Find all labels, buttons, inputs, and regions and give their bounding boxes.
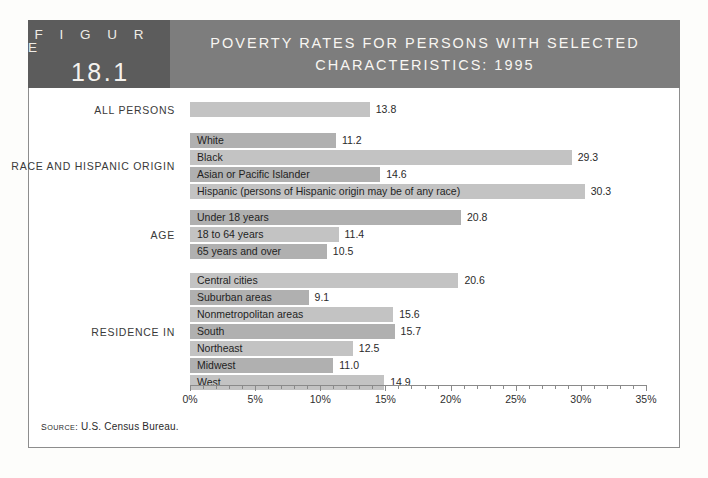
axis-tick-major [255,385,256,391]
bar-label: Asian or Pacific Islander [190,169,310,180]
axis-tick-major [320,385,321,391]
axis-tick-minor [542,385,543,389]
bar-row[interactable]: Hispanic (persons of Hispanic origin may… [190,184,681,199]
figure-word-label: F I G U R E [28,28,170,55]
bar[interactable]: 65 years and over [190,244,327,259]
axis-tick-minor [425,385,426,389]
bar-row[interactable]: Suburban areas9.1 [190,290,681,305]
axis-tick-major [646,385,647,391]
bar[interactable]: White [190,133,336,148]
axis-tick-label: 30% [570,394,591,405]
bar-label: Midwest [190,360,236,371]
bar[interactable] [190,102,370,117]
bar-row[interactable]: Nonmetropolitan areas15.6 [190,307,681,322]
figure-root: F I G U R E 18.1 POVERTY RATES FOR PERSO… [0,0,708,478]
bar[interactable]: Nonmetropolitan areas [190,307,393,322]
axis-tick-minor [229,385,230,389]
bar-row[interactable]: White11.2 [190,133,681,148]
axis-tick-minor [503,385,504,389]
axis-tick-label: 35% [635,394,656,405]
axis-tick-minor [359,385,360,389]
axis-tick-minor [294,385,295,389]
bar-row[interactable]: Asian or Pacific Islander14.6 [190,167,681,182]
axis-tick-minor [464,385,465,389]
x-axis: 0%5%10%15%20%25%30%35% [190,385,646,425]
bar[interactable]: Central cities [190,273,458,288]
axis-tick-minor [633,385,634,389]
axis-tick-label: 15% [375,394,396,405]
axis-tick-minor [594,385,595,389]
axis-tick-label: 20% [440,394,461,405]
bar-row[interactable]: Central cities20.6 [190,273,681,288]
bar-label: Suburban areas [190,292,272,303]
figure-title-text: POVERTY RATES FOR PERSONS WITH SELECTED … [170,32,680,77]
axis-tick-minor [372,385,373,389]
axis-tick-minor [281,385,282,389]
bar-value-label: 30.3 [591,185,611,198]
bar-row[interactable]: 65 years and over10.5 [190,244,681,259]
axis-tick-minor [268,385,269,389]
bar-value-label: 11.2 [342,134,362,147]
bar-rows: White11.2Black29.3Asian or Pacific Islan… [190,133,681,201]
bar-value-label: 11.0 [339,359,359,372]
group-category-label: RACE AND HISPANIC ORIGIN [11,161,175,172]
axis-tick-minor [490,385,491,389]
bar-label: Hispanic (persons of Hispanic origin may… [190,186,460,197]
figure-number-label: 18.1 [68,60,129,85]
bar-row[interactable]: Northeast12.5 [190,341,681,356]
bar[interactable]: Under 18 years [190,210,461,225]
axis-tick-major [385,385,386,391]
bar-value-label: 29.3 [578,151,598,164]
bar-label: Under 18 years [190,212,269,223]
bar[interactable]: Northeast [190,341,353,356]
bar-row[interactable]: Black29.3 [190,150,681,165]
axis-tick-label: 0% [182,394,197,405]
bar-rows: Central cities20.6Suburban areas9.1Nonme… [190,273,681,392]
group-category-label: AGE [151,230,175,241]
bar[interactable]: Midwest [190,358,333,373]
bar[interactable]: Hispanic (persons of Hispanic origin may… [190,184,585,199]
bar[interactable]: Black [190,150,572,165]
bar-value-label: 13.8 [376,103,396,116]
axis-tick-minor [333,385,334,389]
axis-tick-minor [620,385,621,389]
bar-rows: 13.8 [190,102,681,119]
bar-value-label: 12.5 [359,342,379,355]
bar-label: 65 years and over [190,246,281,257]
bar-row[interactable]: Midwest11.0 [190,358,681,373]
axis-tick-minor [529,385,530,389]
axis-tick-label: 25% [505,394,526,405]
source-body: U.S. Census Bureau. [78,421,179,432]
figure-title-band: POVERTY RATES FOR PERSONS WITH SELECTED … [170,20,680,88]
figure-header-band: F I G U R E 18.1 POVERTY RATES FOR PERSO… [28,20,680,88]
axis-tick-minor [346,385,347,389]
axis-tick-minor [568,385,569,389]
x-axis-line [190,385,646,386]
bar-value-label: 20.6 [464,274,484,287]
bar-rows: Under 18 years20.818 to 64 years11.465 y… [190,210,681,261]
axis-tick-minor [203,385,204,389]
bar-label: Nonmetropolitan areas [190,309,303,320]
figure-number-badge: F I G U R E 18.1 [28,20,170,88]
bar-row[interactable]: South15.7 [190,324,681,339]
axis-tick-minor [242,385,243,389]
bar-row[interactable]: Under 18 years20.8 [190,210,681,225]
axis-tick-minor [398,385,399,389]
bar-label: White [190,135,224,146]
bar-label: Northeast [190,343,243,354]
bar-value-label: 14.6 [386,168,406,181]
bar[interactable]: Asian or Pacific Islander [190,167,380,182]
bar[interactable]: 18 to 64 years [190,227,339,242]
bar-row[interactable]: 18 to 64 years11.4 [190,227,681,242]
bar[interactable]: Suburban areas [190,290,309,305]
axis-tick-minor [216,385,217,389]
axis-tick-label: 10% [310,394,331,405]
axis-tick-minor [307,385,308,389]
bar-value-label: 9.1 [315,291,330,304]
axis-tick-minor [411,385,412,389]
source-prefix: SOURCE: [41,422,78,432]
bar[interactable]: South [190,324,395,339]
bar-row[interactable]: 13.8 [190,102,681,117]
bar-value-label: 20.8 [467,211,487,224]
chart-frame: ALL PERSONS13.8RACE AND HISPANIC ORIGINW… [28,88,680,448]
